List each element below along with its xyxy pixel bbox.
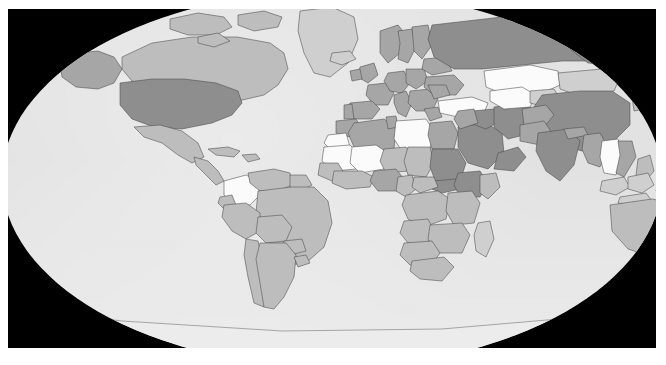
country-madagascar[interactable] — [474, 221, 494, 257]
country-somalia[interactable] — [480, 173, 500, 199]
country-central-america[interactable] — [194, 157, 224, 185]
country-portugal[interactable] — [344, 104, 354, 119]
country-canada-arctic-1[interactable] — [170, 13, 232, 35]
region-north-america — [60, 9, 358, 185]
region-south-america — [218, 169, 332, 309]
world-map-svg[interactable] — [8, 9, 656, 348]
map-page: no data / highest light medium-light med… — [0, 0, 666, 365]
country-mexico[interactable] — [134, 125, 204, 163]
country-australia[interactable] — [610, 199, 656, 257]
country-antarctica-rim — [22, 303, 642, 348]
country-korea[interactable] — [632, 95, 645, 111]
country-peru[interactable] — [222, 203, 260, 239]
country-alaska[interactable] — [60, 51, 122, 89]
country-central-african-republic[interactable] — [412, 177, 438, 193]
country-japan[interactable] — [646, 83, 656, 111]
country-egypt[interactable] — [428, 121, 458, 149]
country-vietnam-cambodia[interactable] — [616, 141, 636, 177]
country-greenland[interactable] — [298, 9, 358, 77]
country-cuba[interactable] — [208, 147, 240, 157]
country-kenya-tanzania[interactable] — [446, 191, 480, 225]
country-south-africa[interactable] — [410, 257, 454, 281]
country-west-africa-coast[interactable] — [332, 171, 374, 189]
globe-ocean — [8, 9, 656, 348]
map-frame — [8, 9, 656, 348]
country-hispaniola[interactable] — [242, 154, 260, 162]
country-united-states[interactable] — [120, 79, 242, 129]
country-chad[interactable] — [404, 147, 434, 177]
region-antarctic-rim — [22, 303, 642, 348]
country-ireland[interactable] — [350, 69, 362, 81]
country-indonesia-sumatra[interactable] — [600, 177, 630, 195]
country-canada-arctic-2[interactable] — [238, 11, 282, 31]
